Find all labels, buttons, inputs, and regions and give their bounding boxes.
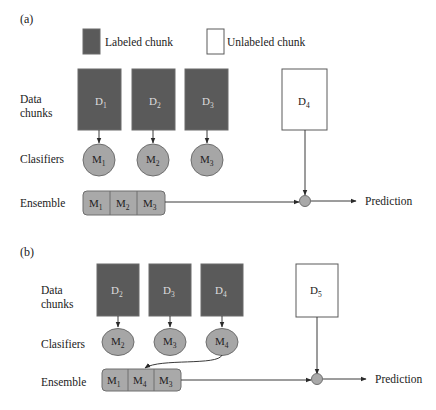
row-label-ensemble: Ensemble [41,376,86,388]
row-label-chunks: chunks [41,298,74,310]
row-label-data: Data [20,93,42,105]
panel-a-label: (a) [20,12,33,26]
replace-arrow [145,355,222,368]
combiner-node [300,196,311,207]
panel-b-label: (b) [20,245,34,259]
ensemble-box: M1 M4 M3 [102,369,181,391]
row-label-ensemble: Ensemble [20,197,65,209]
legend-labeled-text: Labeled chunk [105,36,173,48]
classifier-node: M2 [102,329,134,356]
legend-labeled-swatch [83,29,100,54]
prediction-label: Prediction [365,195,413,207]
row-label-classifiers: Clasifiers [41,338,86,350]
classifier-node: M1 [83,144,115,176]
panel-b: (b) Data chunks Clasifiers Ensemble D2 D… [20,245,423,391]
data-chunk-labeled: D4 [201,264,243,316]
legend-unlabeled-text: Unlabeled chunk [227,36,305,48]
data-chunk-unlabeled: D5 [296,264,338,317]
row-label-data: Data [41,284,63,296]
data-chunk-labeled: D3 [185,69,228,130]
classifier-node: M3 [154,329,186,356]
ensemble-box: M1 M2 M3 [83,191,165,215]
classifier-node: M2 [137,144,169,176]
data-chunk-labeled: D1 [78,69,121,130]
legend: Labeled chunk Unlabeled chunk [83,29,305,54]
combiner-node [312,374,323,385]
row-label-chunks: chunks [20,107,53,119]
data-chunk-labeled: D2 [97,264,139,316]
ensemble-diagram: (a) Labeled chunk Unlabeled chunk Data c… [0,0,436,410]
prediction-label: Prediction [375,373,423,385]
row-label-classifiers: Clasifiers [20,153,65,165]
panel-a: (a) Labeled chunk Unlabeled chunk Data c… [20,12,413,215]
classifier-node: M4 [206,329,238,356]
data-chunk-unlabeled: D4 [282,69,327,130]
data-chunk-labeled: D3 [149,264,191,316]
classifier-node: M3 [191,144,223,176]
data-chunk-labeled: D2 [132,69,175,130]
legend-unlabeled-swatch [207,29,224,54]
